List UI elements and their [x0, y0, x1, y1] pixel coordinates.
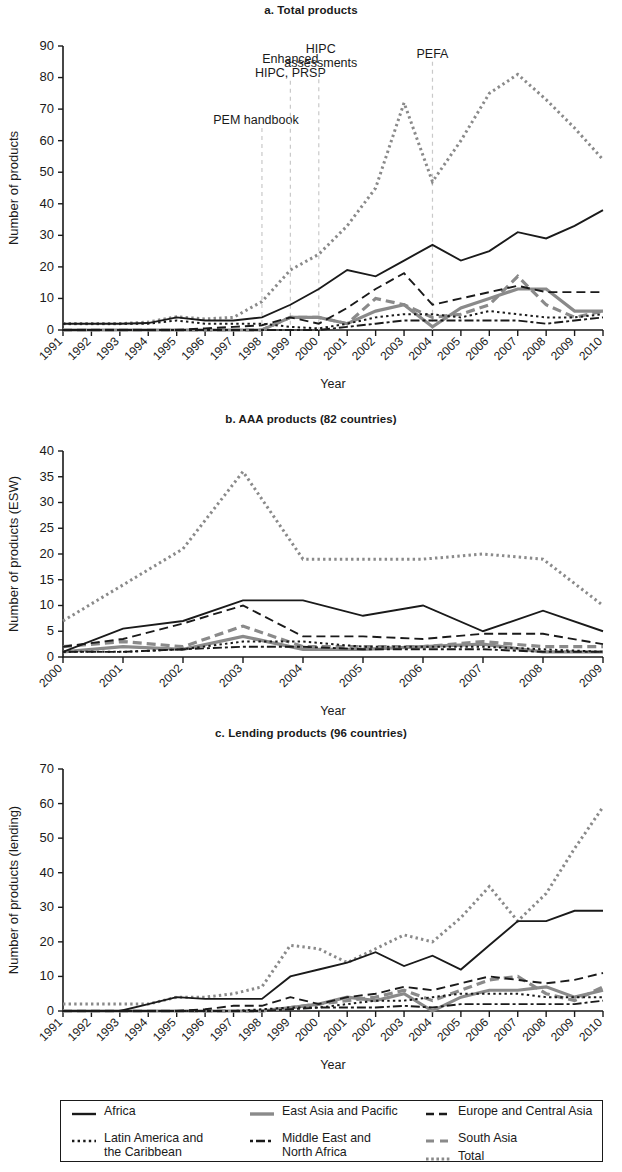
svg-text:50: 50: [40, 830, 54, 845]
svg-text:2001: 2001: [321, 1015, 350, 1044]
svg-text:2001: 2001: [96, 661, 125, 690]
svg-text:5: 5: [47, 623, 54, 638]
svg-text:Number of products: Number of products: [6, 130, 21, 245]
svg-text:2008: 2008: [519, 334, 548, 363]
legend-item-east-asia-and-pacific: East Asia and Pacific: [249, 1105, 425, 1132]
chart-c-svg: 0102030405060701991199219931994199519961…: [0, 743, 622, 1083]
svg-text:70: 70: [40, 101, 54, 116]
svg-text:1997: 1997: [207, 334, 236, 363]
svg-text:Year: Year: [320, 704, 345, 717]
svg-text:40: 40: [40, 443, 54, 458]
svg-text:2005: 2005: [434, 334, 463, 363]
svg-text:20: 20: [40, 546, 54, 561]
legend-item-europe-and-central-asia: Europe and Central Asia: [425, 1105, 610, 1132]
svg-text:1996: 1996: [178, 1015, 207, 1044]
legend-label-total: Total: [458, 1150, 484, 1164]
svg-text:2008: 2008: [519, 1015, 548, 1044]
figure-root: a. Total products 0102030405060708090199…: [0, 0, 622, 1172]
svg-text:2004: 2004: [406, 334, 435, 363]
svg-text:1993: 1993: [93, 1015, 122, 1044]
legend-item-middle-east-and-north-africa: Middle East andNorth Africa: [249, 1132, 425, 1159]
svg-text:2009: 2009: [576, 661, 605, 690]
svg-text:2003: 2003: [377, 1015, 406, 1044]
legend-item-south-asia: South Asia: [425, 1132, 610, 1148]
svg-text:10: 10: [40, 968, 54, 983]
legend-swatch-solid-black-icon: [71, 1107, 97, 1121]
svg-text:Number of products (lending): Number of products (lending): [6, 806, 21, 974]
svg-text:2002: 2002: [349, 334, 378, 363]
svg-text:2004: 2004: [276, 661, 305, 690]
svg-text:60: 60: [40, 796, 54, 811]
svg-text:15: 15: [40, 572, 54, 587]
svg-text:10: 10: [40, 597, 54, 612]
legend-swatch-dashdot-black-icon: [249, 1134, 275, 1148]
chart-a-svg: 0102030405060708090199119921993199419951…: [0, 20, 622, 400]
svg-text:80: 80: [40, 69, 54, 84]
svg-text:Number of products (ESW): Number of products (ESW): [6, 476, 21, 632]
svg-text:2004: 2004: [406, 1015, 435, 1044]
svg-text:1994: 1994: [122, 1015, 151, 1044]
svg-text:Year: Year: [320, 1058, 345, 1072]
legend-label-south-asia: South Asia: [458, 1132, 517, 1146]
svg-text:2010: 2010: [576, 1015, 605, 1044]
panel-total-products: a. Total products 0102030405060708090199…: [0, 0, 622, 400]
svg-text:30: 30: [40, 227, 54, 242]
legend-item-africa: Africa: [71, 1105, 249, 1132]
svg-text:1998: 1998: [235, 334, 264, 363]
legend-label-east-asia-and-pacific: East Asia and Pacific: [282, 1105, 398, 1119]
svg-text:1992: 1992: [65, 334, 94, 363]
svg-text:10: 10: [40, 290, 54, 305]
panel-a-plot: 0102030405060708090199119921993199419951…: [0, 20, 622, 400]
svg-text:1996: 1996: [178, 334, 207, 363]
svg-text:2006: 2006: [463, 334, 492, 363]
svg-text:50: 50: [40, 164, 54, 179]
svg-text:2000: 2000: [36, 661, 65, 690]
legend-column-3-bottom: South Asia Total: [425, 1132, 610, 1159]
svg-text:1997: 1997: [207, 1015, 236, 1044]
svg-text:60: 60: [40, 133, 54, 148]
svg-text:PEM handbook: PEM handbook: [213, 113, 299, 127]
panel-lending-products: c. Lending products (96 countries) 01020…: [0, 727, 622, 1077]
svg-text:2007: 2007: [456, 661, 485, 690]
svg-text:2009: 2009: [548, 1015, 577, 1044]
svg-text:2003: 2003: [377, 334, 406, 363]
legend-item-total: Total: [425, 1150, 610, 1166]
svg-text:2005: 2005: [336, 661, 365, 690]
svg-text:1999: 1999: [264, 1015, 293, 1044]
panel-b-plot: 0510152025303540200020012002200320042005…: [0, 429, 622, 717]
svg-text:2003: 2003: [216, 661, 245, 690]
svg-text:PEFA: PEFA: [416, 47, 449, 61]
svg-text:assessments: assessments: [284, 56, 357, 70]
legend-swatch-solid-gray-icon: [249, 1107, 275, 1121]
panel-b-title: b. AAA products (82 countries): [0, 413, 622, 425]
svg-text:30: 30: [40, 899, 54, 914]
svg-text:HIPC: HIPC: [306, 42, 336, 56]
svg-text:90: 90: [40, 38, 54, 53]
svg-text:0: 0: [47, 649, 54, 664]
svg-text:1993: 1993: [93, 334, 122, 363]
legend-swatch-dotted-gray-icon: [425, 1152, 451, 1166]
svg-text:2006: 2006: [396, 661, 425, 690]
svg-text:0: 0: [47, 1003, 54, 1018]
svg-text:2000: 2000: [292, 334, 321, 363]
svg-text:1999: 1999: [264, 334, 293, 363]
svg-text:1991: 1991: [36, 1015, 65, 1044]
svg-text:2002: 2002: [349, 1015, 378, 1044]
svg-text:2005: 2005: [434, 1015, 463, 1044]
svg-text:Year: Year: [320, 377, 345, 391]
svg-text:1995: 1995: [150, 1015, 179, 1044]
svg-text:30: 30: [40, 494, 54, 509]
legend-item-latin-america-and-the-caribbean: Latin America andthe Caribbean: [71, 1132, 249, 1159]
svg-text:2001: 2001: [321, 334, 350, 363]
legend-grid: Africa East Asia and Pacific Europe and …: [61, 1101, 602, 1161]
svg-text:2002: 2002: [156, 661, 185, 690]
svg-text:2007: 2007: [491, 334, 520, 363]
legend-swatch-dashed-gray-icon: [425, 1134, 451, 1148]
panel-aaa-products: b. AAA products (82 countries) 051015202…: [0, 413, 622, 713]
svg-text:2008: 2008: [516, 661, 545, 690]
chart-b-svg: 0510152025303540200020012002200320042005…: [0, 429, 622, 717]
svg-text:70: 70: [40, 761, 54, 776]
svg-text:2000: 2000: [292, 1015, 321, 1044]
legend-label-europe-and-central-asia: Europe and Central Asia: [458, 1105, 592, 1119]
legend-label-latin-america-and-the-caribbean: Latin America andthe Caribbean: [104, 1132, 203, 1159]
